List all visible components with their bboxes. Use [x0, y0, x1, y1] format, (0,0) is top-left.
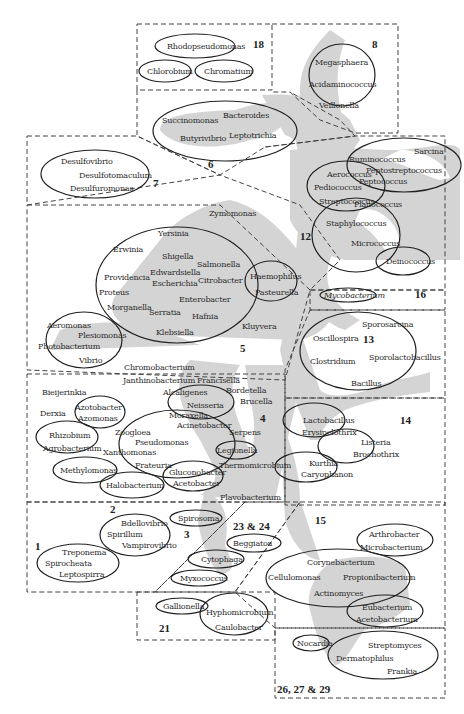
taxon-mycobacterium: Mycobacterium [324, 291, 385, 300]
diagram-canvas: 18 8 6 7 12 5 16 13 4 14 1 2 3 23 & 24 1… [0, 0, 464, 714]
taxon-serratia: Serratia [149, 308, 181, 317]
taxon-enterobacter: Enterobacter [179, 295, 230, 304]
taxon-hafnia: Hafnia [192, 312, 218, 321]
taxon-bacillus: Bacillus [351, 379, 381, 388]
taxon-chromatium: Chromatium [204, 67, 253, 76]
group-number-16: 16 [415, 288, 426, 300]
taxon-bieijerinkia: Bieijerinkia [42, 388, 86, 397]
taxon-zoogloea: Zoogloea [115, 428, 151, 437]
taxon-pseudomonas: Pseudomonas [135, 438, 188, 447]
taxon-propionibacterium: Propionibacterium [343, 573, 415, 582]
taxon-azomonas: Azomonas [78, 414, 118, 423]
taxon-caryophanon: Caryophanon [301, 470, 353, 479]
taxon-edwardsiella: Edwardsiella [150, 268, 200, 277]
taxon-acetobacterium: Acetobacterium [356, 615, 418, 624]
taxon-clostridium: Clostridium [310, 357, 355, 366]
taxon-spirosoma: Spirosoma [178, 514, 219, 523]
taxon-acinetobacter: Acinetobacter [177, 421, 231, 430]
taxon-treponema: Treponema [62, 548, 106, 557]
taxon-micrococcus: Micrococcus [351, 239, 400, 248]
taxon-corynebacterium: Corynebacterium [307, 558, 375, 567]
taxon-pasteurella: Pasteurella [255, 288, 298, 297]
group-number-4: 4 [260, 412, 266, 424]
taxon-proteus: Proteus [99, 288, 129, 297]
taxon-desulfotomaculum: Desulfotomaculum [79, 171, 152, 180]
taxon-neisseria: Neisseria [187, 401, 224, 410]
taxon-gluconobacter: Gluconobacter [169, 468, 226, 477]
taxon-butyrivibrio: Butyrivibrio [180, 134, 226, 143]
group-number-14: 14 [400, 414, 411, 426]
taxon-serpens: Serpens [229, 428, 261, 437]
taxon-legionella: Legionella [217, 446, 257, 455]
taxon-staphylococcus: Staphylococcus [326, 219, 386, 228]
group-number-7: 7 [153, 177, 159, 189]
taxon-acidaminococcus: Acidaminococcus [309, 80, 376, 89]
taxon-agrobacterium: Agrobacterium [43, 444, 101, 453]
group-number-26-27-29: 26, 27 & 29 [277, 683, 330, 695]
taxon-salmonella: Salmonella [197, 260, 240, 269]
taxon-veillonella: Veillonella [319, 101, 359, 110]
taxon-erysipelothrix: Erysipelothrix [302, 428, 357, 437]
taxon-desulfuromonas: Desulfuromonas [70, 184, 133, 193]
taxon-peptococcus: Peptococcus [359, 177, 407, 186]
taxon-thermomicrobium: Thermomicrobium [219, 461, 291, 470]
taxon-methylomonas: Methylomonas [60, 466, 117, 475]
taxon-yersinia: Yersinia [158, 229, 189, 238]
taxon-succinomonas: Succinomonas [162, 116, 218, 125]
taxon-citrobacter: Citrobacter [198, 276, 242, 285]
taxon-brucella: Brucella [240, 397, 272, 406]
taxon-escherichia: Escherichia [152, 279, 197, 288]
group-number-15: 15 [315, 514, 326, 526]
taxon-leptotrichia: Leptotrichia [229, 131, 276, 140]
taxon-kurthia: Kurthia [309, 459, 338, 468]
taxon-cytophaga: Cytophaga [201, 555, 243, 564]
taxon-brochothrix: Brochothrix [353, 450, 399, 459]
taxon-sporosarcina: Sporosarcina [362, 320, 413, 329]
taxon-nocardia: Nocardia [297, 639, 333, 648]
taxon-alcaligenes: Alcaligenes [163, 388, 207, 397]
taxon-plesiomonas: Plesiomonas [78, 331, 126, 340]
group-number-6: 6 [208, 158, 214, 170]
taxon-janthinobacterium: Janthinobacterium [123, 376, 195, 385]
taxon-halobacterium: Halobacterium [106, 481, 164, 490]
taxon-flavobacterium: Flavobacterium [220, 493, 281, 502]
taxon-megasphaera: Megasphaera [315, 58, 368, 67]
group-number-8: 8 [372, 38, 378, 50]
taxon-peptostreptococcus: Peptostreptococcus [366, 166, 442, 175]
taxon-dermatophilus: Dermatophilus [336, 654, 393, 663]
taxon-pediococcus: Pediococcus [314, 183, 362, 192]
taxon-desulfovibrio: Desulfovibrio [61, 157, 113, 166]
taxon-arthrobacter: Arthrobacter [369, 530, 419, 539]
group-number-23-24: 23 & 24 [233, 520, 270, 532]
taxon-xanthomonas: Xanthomonas [103, 448, 156, 457]
taxon-lactobacillus: Lactobacillus [303, 416, 354, 425]
taxon-shigella: Shigella [162, 252, 193, 261]
taxon-streptomyces: Streptomyces [368, 641, 421, 650]
taxon-haemophilus: Haemophilus [250, 272, 301, 281]
taxon-derxia: Derxia [40, 409, 66, 418]
taxon-morganella: Morganella [107, 303, 152, 312]
taxon-aeromonas: Aeromonas [47, 321, 91, 330]
group-number-3: 3 [184, 528, 190, 540]
group-number-12: 12 [300, 230, 311, 242]
taxon-vampirovibrio: Vampirovibrio [122, 541, 177, 550]
taxon-hyphomicrobium: Hyphomicrobium [206, 608, 273, 617]
taxon-oscillospira: Oscillospira [313, 334, 359, 343]
taxon-spirocheata: Spirocheata [45, 559, 92, 568]
taxon-actinomyces: Actinomyces [314, 589, 363, 598]
taxon-chlorobium: Chlorobium [147, 67, 193, 76]
group-number-1: 1 [35, 540, 41, 552]
taxon-gallionella: Gallionella [163, 602, 204, 611]
taxon-bacteroides: Bacteroides [223, 111, 269, 120]
taxon-planococcus: Planococcus [354, 200, 402, 209]
group-number-13: 13 [363, 333, 374, 345]
taxon-kluyvera: Kluyvera [242, 322, 276, 331]
taxon-bordetella: Bordetella [226, 386, 266, 395]
taxon-cellulomonas: Cellulomonas [268, 573, 321, 582]
taxon-rhodopseudomonas: Rhodopseudomonas [167, 42, 245, 51]
taxon-acetobacter: Acetobacter [173, 479, 220, 488]
taxon-chromobacterium: Chromobacterium [124, 363, 195, 372]
group-number-21: 21 [159, 622, 170, 634]
taxon-listeria: Listeria [361, 438, 390, 447]
taxon-francisella: Francisella [197, 376, 240, 385]
